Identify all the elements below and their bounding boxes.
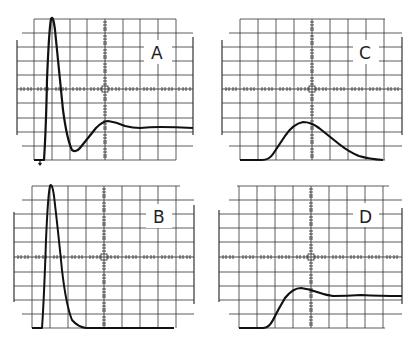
scope-panel-d: D [207,170,414,341]
graticule-b: B [0,170,207,341]
panel-label-b: B [153,207,165,227]
panel-label-c: C [359,43,371,63]
graticule-a: A [0,0,207,171]
scope-panel-b: B [0,170,207,341]
scope-panel-a: A [0,0,207,171]
panel-label-d: D [359,207,372,227]
graticule-d: D [207,170,414,341]
panel-label-a: A [151,43,163,63]
scope-panel-c: C [207,0,414,171]
trace-d [239,288,402,328]
graticule-c: C [207,0,414,171]
